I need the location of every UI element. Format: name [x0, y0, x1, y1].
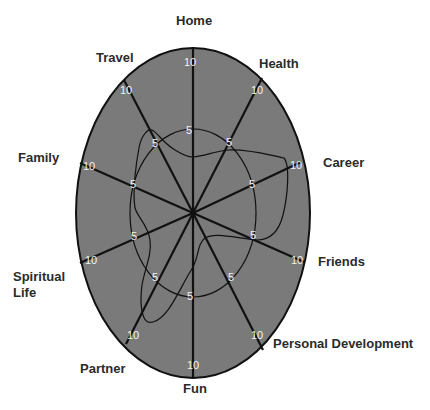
label-home: Home [176, 13, 212, 29]
label-partner: Partner [80, 361, 126, 377]
svg-text:5: 5 [186, 124, 192, 136]
svg-text:5: 5 [249, 178, 255, 190]
svg-text:5: 5 [131, 230, 137, 242]
svg-text:10: 10 [291, 254, 303, 266]
svg-text:5: 5 [152, 271, 158, 283]
label-career: Career [323, 155, 364, 171]
svg-text:5: 5 [228, 271, 234, 283]
svg-text:10: 10 [83, 160, 95, 172]
svg-text:10: 10 [251, 84, 263, 96]
label-spiritual-line1: Spiritual [13, 269, 65, 284]
svg-text:10: 10 [127, 329, 139, 341]
svg-text:10: 10 [290, 159, 302, 171]
label-fun: Fun [183, 381, 207, 397]
label-health: Health [259, 56, 299, 72]
label-friends: Friends [318, 254, 365, 270]
svg-text:10: 10 [120, 84, 132, 96]
svg-text:10: 10 [251, 329, 263, 341]
svg-text:5: 5 [130, 178, 136, 190]
svg-text:10: 10 [184, 56, 196, 68]
svg-text:5: 5 [250, 229, 256, 241]
svg-text:5: 5 [187, 290, 193, 302]
label-family: Family [18, 150, 59, 166]
svg-text:5: 5 [226, 136, 232, 148]
label-travel: Travel [96, 50, 134, 66]
svg-text:10: 10 [187, 359, 199, 371]
label-spiritual-life: Spiritual Life [13, 269, 65, 301]
svg-text:10: 10 [85, 254, 97, 266]
svg-text:5: 5 [152, 137, 158, 149]
label-personal-development: Personal Development [273, 336, 413, 352]
label-spiritual-line2: Life [13, 285, 36, 300]
